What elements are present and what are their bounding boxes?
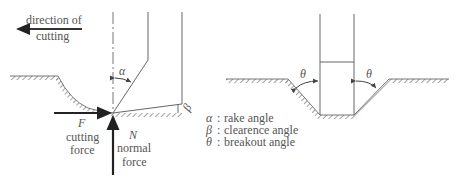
clearance-angle-symbol: β [179,101,195,114]
rake-angle-arc [115,78,131,82]
normal-force-label-line1: normal [117,141,152,155]
breakout-angle-arc-right [356,81,376,88]
legend: α : rake angle β : clearence angle θ : b… [205,111,298,149]
breakout-angle-symbol-left: θ [300,67,306,81]
legend-sep-theta: : [217,135,220,149]
cutting-diagram: direction of cutting α β F cutting [0,0,456,184]
workpiece-surface-right [113,113,183,117]
right-figure: θ θ [226,14,449,119]
cutting-tool [113,12,182,113]
cutting-force-symbol: F [77,116,86,130]
punch-tool [320,14,354,115]
workpiece-surface-left [10,76,113,116]
direction-label-line2: cutting [36,29,69,43]
cutting-force-label-line2: force [70,143,95,157]
left-figure: direction of cutting α β F cutting [10,12,195,175]
breakout-angle-arc-left [296,81,318,88]
breakout-angle-symbol-right: θ [366,67,372,81]
cutting-force-label-line1: cutting [66,130,99,144]
rake-angle-symbol: α [119,64,126,78]
normal-force-symbol: N [128,128,138,142]
legend-symbol-theta: θ [206,135,212,149]
legend-label-breakout: breakout angle [224,135,295,149]
normal-force-label-line2: force [122,155,147,169]
direction-label-line1: direction of [26,13,82,27]
